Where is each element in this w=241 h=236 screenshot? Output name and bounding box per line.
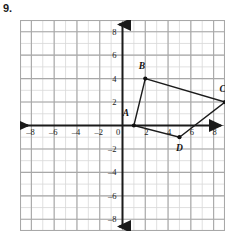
y-tick-label-6: 6 xyxy=(112,50,116,60)
y-tick-label--6: –6 xyxy=(107,191,117,201)
vertex-label-A: A xyxy=(122,108,129,118)
x-tick-label--8: –8 xyxy=(25,127,34,137)
coordinate-plane: –8–6–4–224680–8–6–4–22468xyABCD xyxy=(20,20,225,231)
vertex-label-D: D xyxy=(175,143,183,153)
y-tick-label--2: –2 xyxy=(107,144,117,154)
y-tick-label-8: 8 xyxy=(112,27,116,37)
vertex-point-A xyxy=(132,123,136,127)
coordinate-grid-svg: –8–6–4–224680–8–6–4–22468xyABCD xyxy=(20,20,225,231)
vertex-point-B xyxy=(143,77,147,81)
y-tick-label--4: –4 xyxy=(107,167,117,177)
worksheet-problem: 9. –8–6–4–224680–8–6–4–22468xyABCD xyxy=(0,0,241,236)
x-tick-label-8: 8 xyxy=(212,127,216,137)
x-tick-label--2: –2 xyxy=(93,127,103,137)
x-tick-label--4: –4 xyxy=(71,127,81,137)
x-tick-label--6: –6 xyxy=(48,127,58,137)
vertex-point-D xyxy=(177,135,181,139)
vertex-label-B: B xyxy=(138,61,145,71)
y-tick-label-2: 2 xyxy=(112,97,116,107)
y-tick-label--8: –8 xyxy=(107,214,117,224)
vertex-label-C: C xyxy=(220,84,225,94)
problem-number: 9. xyxy=(3,2,12,14)
origin-label: 0 xyxy=(116,127,120,137)
